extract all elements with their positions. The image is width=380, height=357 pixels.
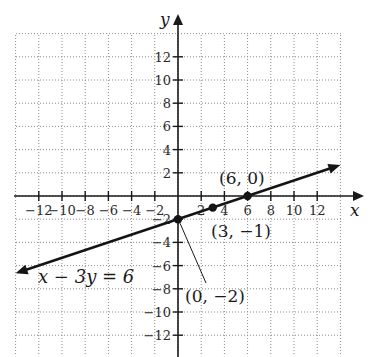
- y-tick-label: −4: [152, 235, 171, 250]
- line-arrow-right-icon: [327, 164, 340, 173]
- y-tick-label: −8: [152, 282, 171, 297]
- y-tick-label: −6: [152, 259, 171, 274]
- x-tick-label: 12: [309, 203, 326, 218]
- x-tick-label: 10: [286, 203, 303, 218]
- point-marker: [243, 192, 251, 200]
- point-label-6-0: (6, 0): [219, 168, 265, 188]
- y-tick-label: −10: [144, 305, 171, 320]
- point-label-3-neg1: (3, −1): [211, 221, 271, 241]
- x-tick-label: −6: [99, 203, 118, 218]
- y-axis-label: y: [159, 9, 170, 29]
- x-tick-label: 8: [267, 203, 275, 218]
- y-tick-label: 10: [154, 73, 171, 88]
- x-tick-label: −4: [122, 203, 141, 218]
- x-tick-label: 6: [243, 203, 251, 218]
- leader-line-0-neg2: [180, 223, 206, 283]
- y-tick-label: 2: [163, 166, 171, 181]
- label-leaders: [180, 223, 206, 283]
- y-tick-label: 4: [163, 143, 171, 158]
- y-axis-arrow-icon: [173, 14, 183, 25]
- y-tick-label: 6: [163, 119, 171, 134]
- x-axis-label: x: [350, 200, 360, 220]
- x-tick-label: −10: [48, 203, 75, 218]
- point-marker: [209, 203, 217, 211]
- coordinate-plane: −12−10−8−6−4−22468101212108642−2−4−6−8−1…: [0, 0, 380, 357]
- y-tick-label: 12: [154, 50, 171, 65]
- y-tick-label: −12: [144, 328, 171, 343]
- y-tick-label: 8: [163, 96, 171, 111]
- line-arrow-left-icon: [16, 265, 29, 274]
- equation-label: x − 3y = 6: [38, 266, 134, 287]
- x-tick-label: −8: [76, 203, 95, 218]
- point-marker: [174, 215, 182, 223]
- point-label-0-neg2: (0, −2): [185, 286, 245, 306]
